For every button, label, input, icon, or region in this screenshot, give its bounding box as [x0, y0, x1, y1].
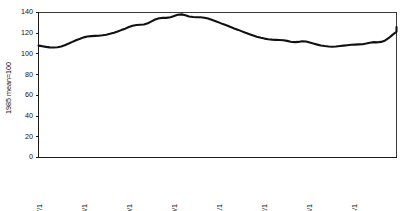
x-axis-tick-labels: 1987/1 1988/1 1989/1 1990/1 1991/1 1992/… — [35, 204, 359, 211]
x-tick-label-1990: 1990/1 — [170, 204, 179, 211]
data-series-line — [39, 14, 397, 47]
line-chart: 0 20 40 60 80 100 120 140 1985 mean=100 … — [0, 0, 413, 211]
x-tick-label-1988: 1988/1 — [80, 204, 89, 211]
plot-frame — [39, 13, 397, 158]
x-tick-label-1987: 1987/1 — [35, 204, 44, 211]
y-axis-title: 1985 mean=100 — [4, 62, 13, 114]
x-tick-label-1991: 1991/1 — [215, 204, 224, 211]
y-tick-label-60: 60 — [25, 90, 33, 99]
y-tick-label-80: 80 — [25, 70, 33, 79]
y-tick-label-100: 100 — [21, 49, 33, 58]
chart-container: 0 20 40 60 80 100 120 140 1985 mean=100 … — [0, 0, 413, 211]
x-tick-label-1994: 1994/1 — [350, 204, 359, 211]
y-tick-label-0: 0 — [29, 152, 33, 161]
y-tick-label-40: 40 — [25, 111, 33, 120]
x-tick-label-1992: 1992/1 — [260, 204, 269, 211]
y-tick-label-140: 140 — [21, 7, 33, 16]
x-tick-label-1993: 1993/1 — [305, 204, 314, 211]
y-axis-tick-labels: 0 20 40 60 80 100 120 140 — [21, 7, 33, 161]
y-tick-label-120: 120 — [21, 28, 33, 37]
x-tick-label-1989: 1989/1 — [125, 204, 134, 211]
y-tick-label-20: 20 — [25, 132, 33, 141]
